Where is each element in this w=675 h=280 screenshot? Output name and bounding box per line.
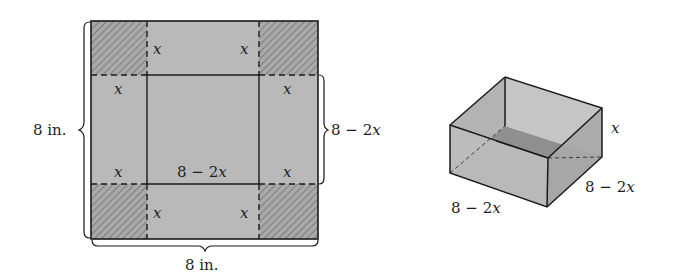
label-sheet-width: 8 in. (185, 256, 219, 274)
label-sheet-height: 8 in. (33, 121, 67, 139)
label-x-bottom-left: x (153, 204, 162, 222)
corner-square-top-left (91, 21, 147, 75)
open-box: x 8 − 2x 8 − 2x (450, 77, 635, 217)
label-box-depth: 8 − 2x (585, 178, 635, 196)
diagram-canvas: x x x x x x x x 8 − 2x 8 in. 8 in. 8 − 2… (0, 0, 675, 280)
right-brace (319, 75, 328, 184)
left-brace (79, 22, 90, 238)
corner-square-bottom-right (259, 184, 318, 239)
label-x-top-right: x (240, 40, 249, 58)
label-x-right-top: x (283, 80, 292, 98)
label-box-height: x (611, 119, 620, 137)
label-box-width: 8 − 2x (451, 199, 501, 217)
corner-square-top-right (259, 21, 318, 75)
label-base-side: 8 − 2x (177, 163, 227, 181)
label-x-right-bottom: x (283, 163, 292, 181)
label-x-top-left: x (153, 40, 162, 58)
corner-square-bottom-left (91, 184, 147, 239)
label-x-left-bottom: x (114, 163, 123, 181)
flat-sheet: x x x x x x x x 8 − 2x 8 in. 8 in. 8 − 2… (33, 21, 381, 274)
bottom-brace (92, 240, 318, 251)
label-x-bottom-right: x (240, 204, 249, 222)
label-x-left-top: x (114, 80, 123, 98)
label-inner-side: 8 − 2x (331, 121, 381, 139)
